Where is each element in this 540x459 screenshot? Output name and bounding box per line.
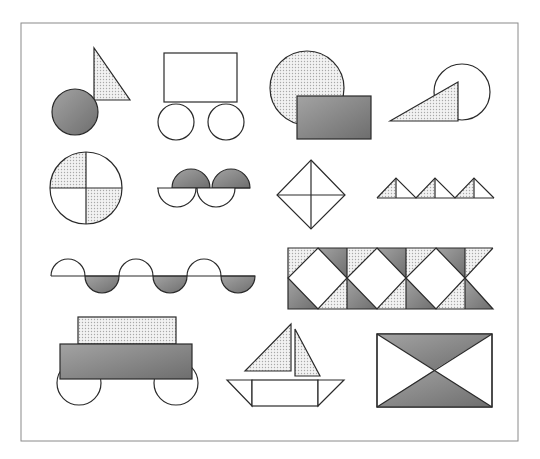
quartered-circle	[50, 152, 122, 224]
hourglass-rectangle	[377, 334, 492, 407]
diamond-band-pattern	[288, 248, 493, 309]
shape-worksheet	[0, 0, 540, 459]
